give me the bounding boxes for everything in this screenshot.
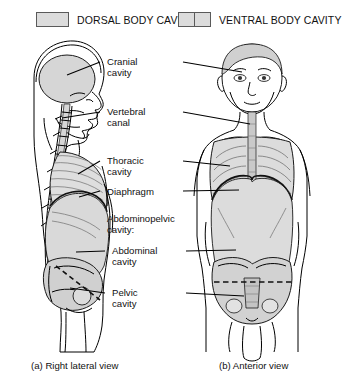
label-cranial-cavity: Cranial cavity	[107, 56, 137, 78]
label-thoracic-cavity: Thoracic cavity	[107, 155, 144, 177]
label-pelvic-cavity: Pelvic cavity	[112, 287, 138, 309]
label-abdominopelvic-cavity: Abdominopelvic cavity:	[107, 213, 175, 235]
anatomy-figure: DORSAL BODY CAVITY VENTRAL BODY CAVITY	[0, 0, 348, 382]
label-abdominal-cavity: Abdominal cavity	[112, 245, 157, 267]
label-column: Cranial cavity Vertebral canal Thoracic …	[0, 0, 348, 382]
caption-lateral-view: (a) Right lateral view	[31, 360, 118, 371]
label-diaphragm: Diaphragm	[107, 186, 154, 197]
label-vertebral-canal: Vertebral canal	[107, 106, 145, 128]
caption-anterior-view: (b) Anterior view	[219, 360, 288, 371]
